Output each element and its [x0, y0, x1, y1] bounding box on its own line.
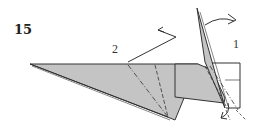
arrow-2: [128, 30, 176, 62]
origami-diagram: [0, 0, 257, 133]
arrow-1: [205, 19, 234, 25]
long-flap: [30, 64, 198, 120]
